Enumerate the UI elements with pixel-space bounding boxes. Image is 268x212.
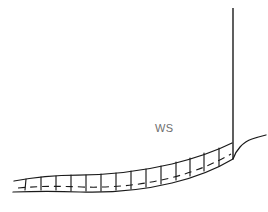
ws-label: WS [155,122,173,134]
background-rect [0,0,268,212]
line-diagram-svg: WS [0,0,268,212]
figure-canvas: WS [0,0,268,212]
